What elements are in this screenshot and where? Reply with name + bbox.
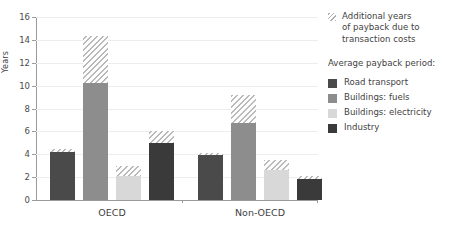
y-tick-mark	[32, 109, 36, 110]
gridline	[36, 86, 318, 87]
legend-color-swatch	[328, 124, 337, 133]
bar-segment-additional-years	[231, 95, 256, 124]
gridline	[36, 109, 318, 110]
y-tick-mark	[32, 86, 36, 87]
x-axis-label-oecd: OECD	[98, 207, 125, 218]
bar-non-oecd-buildings-fuels	[231, 95, 256, 200]
bar-oecd-road-transport	[50, 149, 75, 200]
bar-segment-average-payback	[231, 123, 256, 200]
y-tick-mark	[32, 40, 36, 41]
bar-segment-average-payback	[50, 152, 75, 200]
bar-segment-average-payback	[83, 83, 108, 200]
y-tick-label: 0	[25, 195, 30, 205]
legend-item-buildings-electricity[interactable]: Buildings: electricity	[328, 105, 452, 120]
legend-item-label: Buildings: electricity	[344, 107, 432, 117]
y-tick-mark	[32, 63, 36, 64]
bar-non-oecd-buildings-electricity	[264, 160, 289, 200]
legend-item-buildings-fuels[interactable]: Buildings: fuels	[328, 90, 452, 105]
legend-color-swatch	[328, 94, 337, 103]
x-axis-label-non-oecd: Non-OECD	[235, 207, 285, 218]
y-tick-label: 10	[19, 81, 30, 91]
legend-item-industry[interactable]: Industry	[328, 120, 452, 135]
gridline	[36, 200, 318, 201]
payback-period-bar-chart: Years 0246810121416 OECDNon-OECD Additio…	[0, 0, 452, 226]
bar-segment-additional-years	[264, 160, 289, 170]
y-axis-title: Years	[1, 13, 13, 73]
gridline	[36, 131, 318, 132]
diagonal-hatch-pattern-icon	[328, 13, 336, 21]
bar-segment-additional-years	[83, 36, 108, 83]
gridline	[36, 154, 318, 155]
y-tick-label: 2	[25, 172, 30, 182]
y-tick-mark	[32, 200, 36, 201]
y-tick-label: 12	[19, 58, 30, 68]
chart-legend: Additional yearsof payback due totransac…	[328, 11, 452, 135]
legend-items-list: Road transportBuildings: fuelsBuildings:…	[328, 75, 452, 135]
y-tick-label: 8	[25, 104, 30, 114]
y-tick-mark	[32, 131, 36, 132]
legend-color-swatch	[328, 79, 337, 88]
bar-segment-average-payback	[149, 143, 174, 200]
bar-segment-additional-years	[116, 166, 141, 176]
y-tick-mark	[32, 17, 36, 18]
y-tick-label: 6	[25, 126, 30, 136]
bar-segment-additional-years	[149, 131, 174, 142]
bar-non-oecd-industry	[297, 176, 322, 200]
x-axis-separator	[317, 200, 318, 203]
gridline	[36, 40, 318, 41]
bar-oecd-buildings-fuels	[83, 36, 108, 200]
legend-item-road-transport[interactable]: Road transport	[328, 75, 452, 90]
bar-segment-average-payback	[297, 179, 322, 200]
y-tick-mark	[32, 177, 36, 178]
legend-title: Average payback period:	[328, 58, 452, 69]
legend-note-text: Additional yearsof payback due totransac…	[342, 11, 420, 45]
bar-segment-average-payback	[198, 155, 223, 200]
plot-area-wrapper: Years 0246810121416 OECDNon-OECD	[0, 0, 326, 226]
x-axis-separator	[182, 200, 183, 203]
bar-oecd-buildings-electricity	[116, 166, 141, 200]
gridline	[36, 63, 318, 64]
bar-non-oecd-road-transport	[198, 153, 223, 200]
bar-oecd-industry	[149, 131, 174, 200]
plot-area: 0246810121416 OECDNon-OECD	[36, 17, 318, 200]
legend-item-label: Industry	[344, 122, 379, 132]
bar-segment-average-payback	[264, 170, 289, 200]
y-tick-label: 4	[25, 149, 30, 159]
legend-note-additional-years: Additional yearsof payback due totransac…	[328, 11, 452, 45]
legend-item-label: Buildings: fuels	[344, 92, 410, 102]
bar-segment-average-payback	[116, 176, 141, 200]
legend-color-swatch	[328, 109, 337, 118]
y-tick-mark	[32, 154, 36, 155]
gridline	[36, 17, 318, 18]
y-tick-label: 16	[19, 12, 30, 22]
y-tick-label: 14	[19, 35, 30, 45]
legend-item-label: Road transport	[344, 77, 408, 87]
